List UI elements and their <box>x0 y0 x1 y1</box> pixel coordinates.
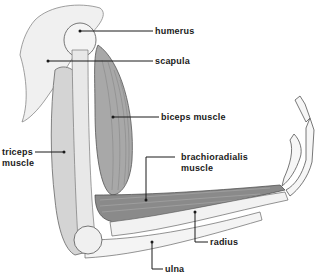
label-radius: radius <box>210 237 238 247</box>
label-humerus: humerus <box>155 26 194 36</box>
biceps-shape <box>95 45 133 195</box>
label-brachioradialis-line2: muscle <box>181 163 213 173</box>
label-brachioradialis-line1: brachioradialis <box>181 152 248 162</box>
label-biceps: biceps muscle <box>161 112 226 122</box>
label-triceps-line1: triceps <box>2 147 33 157</box>
elbow-joint <box>74 226 102 254</box>
label-ulna: ulna <box>165 264 184 274</box>
arm-illustration <box>0 0 319 276</box>
label-scapula: scapula <box>155 56 190 66</box>
hand-bones <box>282 96 314 196</box>
label-triceps-line2: muscle <box>2 158 34 168</box>
